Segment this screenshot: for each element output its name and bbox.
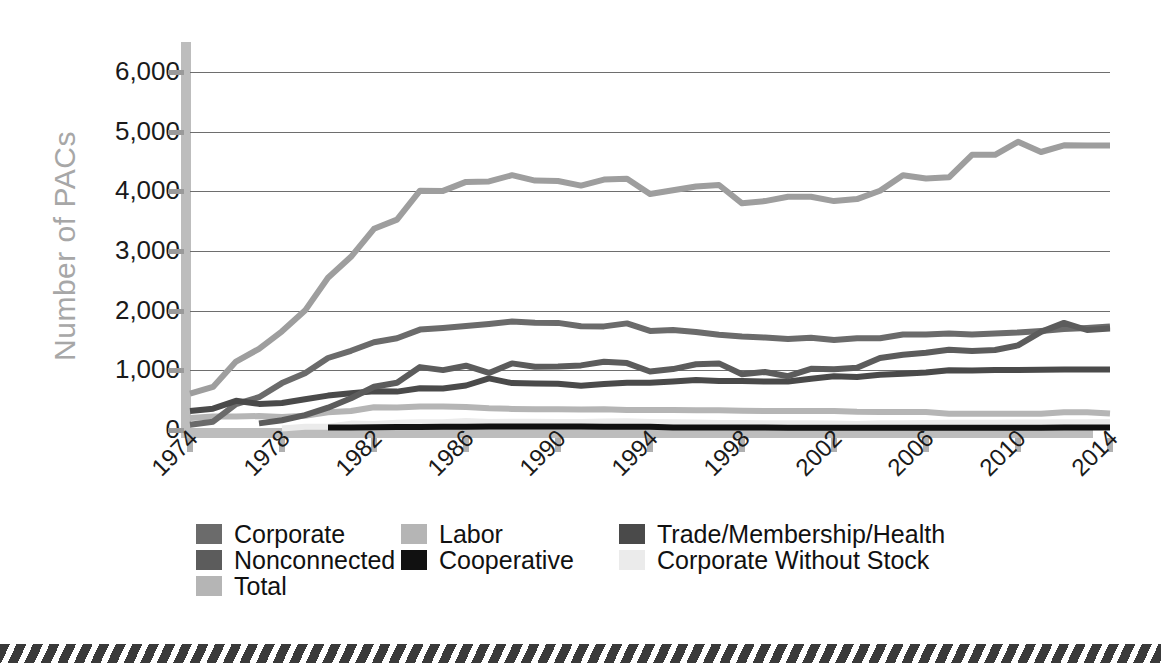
series-lines bbox=[190, 42, 1110, 430]
legend-label: Nonconnected bbox=[234, 550, 395, 570]
legend-row: Total bbox=[196, 576, 1026, 596]
y-axis-tick bbox=[168, 309, 184, 314]
y-axis-tick bbox=[168, 368, 184, 373]
y-axis-tick-label: 5,000 bbox=[90, 116, 180, 147]
legend-swatch bbox=[196, 576, 222, 596]
series-line bbox=[328, 427, 1110, 428]
chart-figure: Number of PACs 01,0002,0003,0004,0005,00… bbox=[0, 0, 1161, 663]
legend-swatch bbox=[196, 524, 222, 544]
legend-row: CorporateLaborTrade/Membership/Health bbox=[196, 524, 1026, 544]
legend-label: Total bbox=[234, 576, 287, 596]
y-axis-tick-label: 3,000 bbox=[90, 235, 180, 266]
legend-label: Labor bbox=[439, 524, 503, 544]
legend-swatch bbox=[401, 524, 427, 544]
legend-item[interactable]: Labor bbox=[401, 524, 619, 544]
y-axis-tick-label: 6,000 bbox=[90, 56, 180, 87]
legend-item[interactable]: Corporate bbox=[196, 524, 401, 544]
legend-swatch bbox=[401, 550, 427, 570]
legend-label: Cooperative bbox=[439, 550, 574, 570]
y-axis-tick-label: 2,000 bbox=[90, 295, 180, 326]
legend-swatch bbox=[619, 550, 645, 570]
legend-item[interactable]: Trade/Membership/Health bbox=[619, 524, 945, 544]
plot-area bbox=[190, 42, 1110, 430]
decorative-hatch-bar bbox=[0, 644, 1161, 663]
legend-item[interactable]: Corporate Without Stock bbox=[619, 550, 929, 570]
legend-item[interactable]: Nonconnected bbox=[196, 550, 401, 570]
y-axis-tick bbox=[168, 70, 184, 75]
y-axis-title: Number of PACs bbox=[44, 86, 86, 406]
legend-label: Trade/Membership/Health bbox=[657, 524, 945, 544]
legend-swatch bbox=[619, 524, 645, 544]
legend-row: NonconnectedCooperativeCorporate Without… bbox=[196, 550, 1026, 570]
legend-label: Corporate bbox=[234, 524, 345, 544]
chart-legend: CorporateLaborTrade/Membership/HealthNon… bbox=[196, 524, 1026, 602]
y-axis-tick-label: 1,000 bbox=[90, 354, 180, 385]
y-axis-tick bbox=[168, 189, 184, 194]
y-axis-tick-label: 4,000 bbox=[90, 175, 180, 206]
legend-item[interactable]: Cooperative bbox=[401, 550, 619, 570]
legend-label: Corporate Without Stock bbox=[657, 550, 929, 570]
legend-swatch bbox=[196, 550, 222, 570]
y-axis-tick bbox=[168, 249, 184, 254]
y-axis-tick bbox=[168, 130, 184, 135]
legend-item[interactable]: Total bbox=[196, 576, 401, 596]
